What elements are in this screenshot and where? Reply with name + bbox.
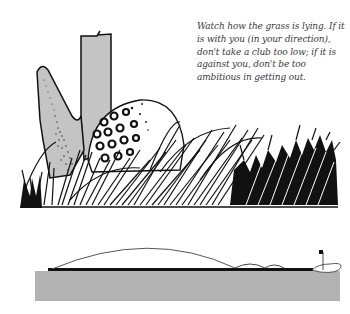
ball-flight-arc	[52, 248, 235, 269]
shot-trajectory-diagram	[0, 0, 350, 314]
ground-block	[35, 271, 340, 301]
flag-icon	[319, 250, 323, 254]
ball-bounce-2	[265, 265, 284, 268]
green-surface	[312, 263, 341, 272]
fairway-line	[48, 268, 313, 271]
ball-bounce-1	[235, 264, 265, 268]
